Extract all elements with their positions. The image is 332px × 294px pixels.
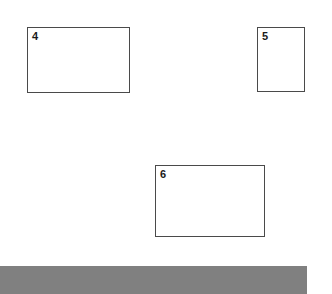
diagram-canvas: 4 5 6 [0, 0, 332, 294]
region-box-6-label: 6 [160, 168, 166, 180]
region-box-4-label: 4 [32, 30, 38, 42]
region-box-6[interactable]: 6 [155, 165, 265, 237]
region-box-5[interactable]: 5 [257, 27, 305, 92]
bottom-gray-bar [0, 266, 307, 294]
region-box-4[interactable]: 4 [27, 27, 130, 93]
region-box-5-label: 5 [262, 30, 268, 42]
